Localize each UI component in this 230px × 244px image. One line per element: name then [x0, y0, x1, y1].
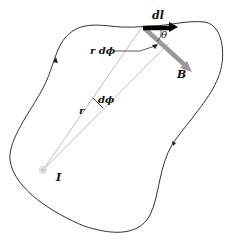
label-dl: dl	[152, 10, 164, 21]
current-point	[41, 168, 44, 171]
label-current-I: I	[56, 172, 61, 183]
label-r: r	[79, 106, 84, 116]
label-theta: θ	[161, 30, 167, 40]
ampere-loop-diagram: dl θ B r dϕ r dϕ I	[0, 0, 230, 244]
rdphi-leader	[114, 46, 155, 51]
label-dphi: dϕ	[98, 95, 114, 105]
label-r-dphi: r dϕ	[90, 46, 115, 56]
label-B: B	[177, 69, 186, 80]
radial-line-2	[43, 43, 169, 170]
closed-loop-path	[10, 22, 223, 233]
